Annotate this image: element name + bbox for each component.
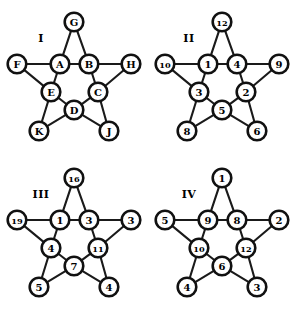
node-label: 2 <box>276 215 283 226</box>
graph-node-top: 16 <box>65 169 84 188</box>
graph-edge <box>46 270 67 283</box>
node-label: 5 <box>162 215 169 226</box>
graph-edge <box>211 186 220 213</box>
node-label: 4 <box>48 243 55 254</box>
graph-node-left: 5 <box>156 211 175 230</box>
graph-edge <box>252 69 273 87</box>
graph-edge <box>63 30 72 57</box>
node-label: 8 <box>184 126 191 137</box>
graph-node-mid-left: E <box>42 83 61 102</box>
graph-node-right: H <box>122 55 141 74</box>
node-label: 5 <box>219 105 226 116</box>
graph-node-mid-right: C <box>89 83 108 102</box>
graph-node-top-right: 3 <box>80 211 99 230</box>
panel-numeral-label: III <box>33 188 50 201</box>
graph-node-top-left: A <box>51 55 70 74</box>
graph-node-right: 2 <box>270 211 289 230</box>
graph-node-mid-right: 12 <box>237 239 256 258</box>
graph-edge <box>100 100 107 123</box>
pentagram-graph-ii: II121098614325 <box>148 0 296 155</box>
graph-node-mid-left: 10 <box>190 239 209 258</box>
graph-edge <box>189 100 196 124</box>
graph-edge <box>81 270 102 283</box>
graph-edge <box>46 114 67 127</box>
pentagram-panel-iii: III1619354134117 <box>0 156 148 311</box>
graph-edge <box>63 186 72 213</box>
graph-node-bottom: 5 <box>213 101 232 120</box>
pentagram-graph-iv: IV152439810126 <box>148 156 296 311</box>
graph-node-right: 3 <box>122 211 141 230</box>
node-label: 16 <box>68 174 80 184</box>
node-label: C <box>94 87 102 98</box>
panel-numeral-label: I <box>38 32 44 45</box>
graph-edge <box>229 270 250 283</box>
graph-edge <box>171 225 193 243</box>
graph-node-bottom-left: 5 <box>30 278 49 297</box>
graph-node-bottom: 6 <box>213 257 232 276</box>
graph-node-left: F <box>8 55 27 74</box>
graph-node-left: 10 <box>156 55 175 74</box>
node-label: G <box>70 17 79 28</box>
node-label: 3 <box>254 282 261 293</box>
node-label: 1 <box>219 173 226 184</box>
node-label: 4 <box>234 59 241 70</box>
graph-edge <box>252 225 273 243</box>
graph-node-bottom-left: 8 <box>178 122 197 141</box>
graph-node-bottom: 7 <box>65 257 84 276</box>
node-label: A <box>55 59 64 70</box>
graph-edge <box>100 256 107 279</box>
node-label: 1 <box>57 215 64 226</box>
node-label: 8 <box>234 215 241 226</box>
node-label: 4 <box>184 282 191 293</box>
node-label: H <box>126 59 135 70</box>
graph-node-bottom-right: J <box>100 122 119 141</box>
graph-edge <box>171 69 193 87</box>
graph-node-bottom-right: 3 <box>248 278 267 297</box>
graph-node-top: G <box>65 13 84 32</box>
graph-edge <box>41 100 48 124</box>
node-label: E <box>47 87 55 98</box>
graph-node-top-right: 4 <box>228 55 247 74</box>
node-label: B <box>85 59 93 70</box>
four-pentagram-figure: IGFHKJABECD II121098614325 III1619354134… <box>0 0 296 311</box>
graph-node-top-right: 8 <box>228 211 247 230</box>
node-label: 3 <box>196 87 203 98</box>
graph-edge <box>189 256 196 280</box>
graph-node-bottom-right: 4 <box>100 278 119 297</box>
graph-node-top: 1 <box>213 169 232 188</box>
node-label: 7 <box>71 261 78 272</box>
graph-edge <box>23 225 45 243</box>
graph-edge <box>225 186 235 213</box>
graph-edge <box>194 114 215 127</box>
graph-edge <box>248 256 255 279</box>
graph-edge <box>41 256 48 280</box>
node-label: 12 <box>216 18 227 28</box>
pentagram-panel-iv: IV152439810126 <box>148 156 296 311</box>
graph-edge <box>225 30 235 57</box>
node-label: 19 <box>11 216 23 226</box>
node-label: 9 <box>205 215 212 226</box>
graph-node-bottom-left: K <box>30 122 49 141</box>
graph-edge <box>211 30 220 57</box>
graph-node-top: 12 <box>213 13 232 32</box>
graph-node-bottom: D <box>65 101 84 120</box>
graph-edge <box>23 69 45 87</box>
node-label: D <box>70 105 79 116</box>
node-label: 10 <box>193 244 205 254</box>
node-label: K <box>35 126 44 137</box>
node-label: 3 <box>86 215 93 226</box>
node-label: 5 <box>36 282 43 293</box>
graph-edge <box>77 30 87 57</box>
pentagram-graph-iii: III1619354134117 <box>0 156 148 311</box>
graph-node-mid-right: 11 <box>89 239 108 258</box>
graph-node-top-left: 1 <box>199 55 218 74</box>
graph-edge <box>77 186 87 213</box>
graph-node-mid-right: 2 <box>237 83 256 102</box>
node-label: 6 <box>254 126 261 137</box>
pentagram-graph-i: IGFHKJABECD <box>0 0 148 155</box>
node-label: 3 <box>128 215 135 226</box>
graph-node-mid-left: 3 <box>190 83 209 102</box>
graph-node-left: 19 <box>8 211 27 230</box>
pentagram-panel-ii: II121098614325 <box>148 0 296 155</box>
graph-edge <box>104 225 125 243</box>
